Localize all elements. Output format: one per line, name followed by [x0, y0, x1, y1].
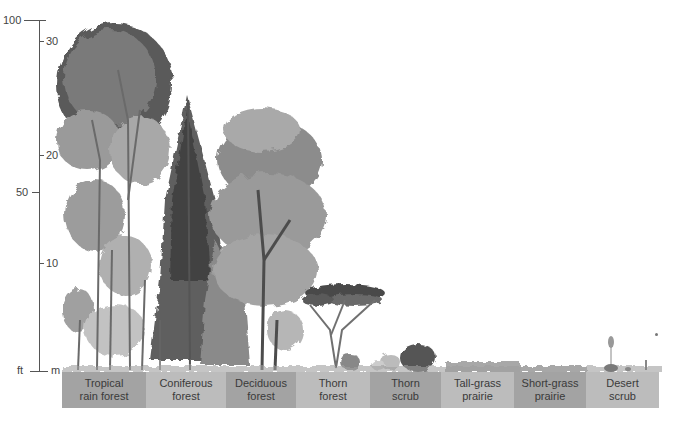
biome-label-line2: forest — [319, 390, 348, 403]
biome-coniferous-forest: Coniferousforest — [146, 372, 226, 408]
biome-label-line1: Desert — [606, 377, 638, 390]
biome-short-grass-prairie: Short-grassprairie — [514, 372, 586, 408]
biome-label-line2: rain forest — [80, 390, 129, 403]
biome-thorn-forest: Thornforest — [296, 372, 370, 408]
biome-label-line1: Deciduous — [235, 377, 287, 390]
biome-label-line2: forest — [235, 390, 287, 403]
thorn-forest-tree — [302, 284, 385, 370]
biome-label-line1: Tropical — [80, 377, 129, 390]
biome-label-line2: scrub — [391, 390, 420, 403]
biome-thorn-scrub: Thornscrub — [370, 372, 441, 408]
speck — [655, 333, 658, 336]
biome-label-line1: Thorn — [391, 377, 420, 390]
biome-label-line1: Thorn — [319, 377, 348, 390]
biome-label-line1: Coniferous — [159, 377, 212, 390]
biome-label-line2: forest — [159, 390, 212, 403]
biome-label-line1: Short-grass — [522, 377, 579, 390]
biome-label-line2: scrub — [606, 390, 638, 403]
grassland-ground — [62, 362, 662, 372]
biome-tall-grass-prairie: Tall-grassprairie — [441, 372, 514, 408]
biome-tropical-rain-forest: Tropicalrain forest — [62, 372, 146, 408]
vegetation-illustration — [0, 0, 674, 422]
biome-label-line2: prairie — [454, 390, 501, 403]
biome-deciduous-forest: Deciduousforest — [226, 372, 296, 408]
biome-label-line2: prairie — [522, 390, 579, 403]
tropical-rain-forest-trees — [56, 23, 173, 356]
biome-label-line1: Tall-grass — [454, 377, 501, 390]
biome-desert-scrub: Desertscrub — [586, 372, 659, 408]
